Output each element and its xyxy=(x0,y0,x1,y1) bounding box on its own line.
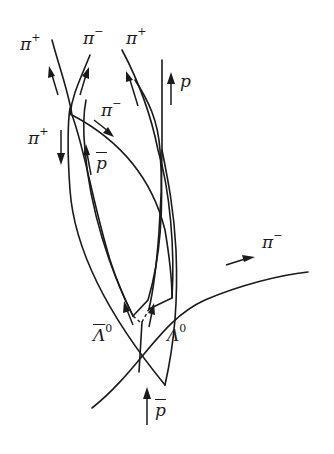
track-diagram xyxy=(0,0,334,454)
arrow-pi-plus-top-right xyxy=(126,71,138,106)
arrow-pi-minus-right xyxy=(226,255,255,265)
track-lambda-decay-1 xyxy=(122,50,173,309)
arrow-antiproton-beam xyxy=(143,387,151,425)
label-pi-plus-left: π+ xyxy=(28,128,48,147)
label-antilambda: Λ0 xyxy=(93,325,112,344)
arrow-pi-plus-left xyxy=(57,130,65,165)
label-antiproton-beam: p xyxy=(155,402,166,419)
track-pi-minus-right xyxy=(92,272,308,408)
track-lambda-decay-2 xyxy=(149,60,162,309)
track-lambda-neutral xyxy=(142,309,149,322)
track-antilambda-decay-1 xyxy=(133,80,162,316)
label-pi-minus-mid: π− xyxy=(101,100,121,119)
track-right-arc xyxy=(162,150,177,385)
arrow-pi-plus-top-left xyxy=(48,66,58,95)
label-antiproton-mid: p xyxy=(96,155,107,172)
arrow-pi-minus-mid xyxy=(94,120,114,137)
label-pi-minus-right: π− xyxy=(262,232,282,251)
label-pi-minus-top: π− xyxy=(83,28,103,47)
arrow-pi-minus-top xyxy=(80,67,89,95)
label-pi-plus-top-left: π+ xyxy=(20,34,40,53)
arrow-proton xyxy=(167,72,175,105)
track-antiproton-beam xyxy=(139,322,142,372)
label-lambda: Λ0 xyxy=(167,325,186,344)
track-pi-minus-upper xyxy=(70,55,90,115)
label-proton: p xyxy=(180,73,191,90)
track-antilambda-neutral xyxy=(133,316,140,322)
label-pi-plus-top-right: π+ xyxy=(126,28,146,47)
